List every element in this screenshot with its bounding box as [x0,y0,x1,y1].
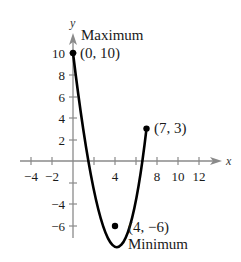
y-tick-labels: 10 8 6 4 2 −4 −6 [51,46,65,234]
x-tick-labels: −4 −2 4 8 10 12 [24,169,205,184]
max-note: Maximum [81,27,144,43]
svg-text:8: 8 [154,169,161,184]
svg-text:−4: −4 [24,169,38,184]
x-axis-label: x [225,154,232,168]
x-axis: x [20,154,232,168]
chart: x −4 −2 4 8 10 12 y 10 8 6 4 2 −4 −6 [0,0,241,262]
svg-text:10: 10 [52,46,65,61]
svg-text:10: 10 [172,169,185,184]
svg-text:−2: −2 [45,169,59,184]
y-axis-label: y [69,16,76,30]
max-point-label: (0, 10) [80,45,120,62]
svg-text:4: 4 [112,169,119,184]
end-point-marker [143,125,149,131]
max-point-marker [70,50,76,56]
min-point-label: (4, −6) [128,219,169,236]
svg-text:6: 6 [59,90,66,105]
y-axis: y [69,16,77,238]
svg-text:−6: −6 [51,219,65,234]
svg-text:4: 4 [59,111,66,126]
min-note: Minimum [128,236,188,252]
end-point-label: (7, 3) [154,120,187,137]
svg-text:8: 8 [59,68,66,83]
svg-text:−4: −4 [51,197,65,212]
svg-text:2: 2 [59,133,66,148]
min-point-marker [112,223,118,229]
svg-text:12: 12 [193,169,206,184]
